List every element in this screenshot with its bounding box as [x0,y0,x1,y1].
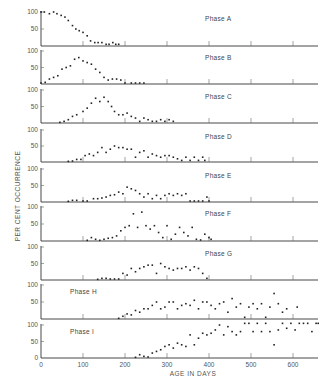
data-point [236,334,238,336]
data-point [86,200,88,202]
data-point [202,332,204,334]
data-point [72,116,74,118]
data-point [173,301,175,303]
data-point [139,152,141,154]
data-point [173,156,175,158]
data-point [210,332,212,334]
panel-phase-i: 501000Phase I [27,321,319,361]
data-point [59,122,61,124]
data-point [202,273,204,275]
data-point [101,197,103,199]
data-point [49,78,51,80]
data-point [64,16,66,18]
data-point [208,237,210,239]
data-point [126,112,128,114]
data-point [114,145,116,147]
data-point [128,225,130,227]
data-point [173,195,175,197]
data-point [173,121,175,123]
data-point [278,303,280,305]
data-point [170,239,172,241]
data-point [191,227,193,229]
data-point [223,301,225,303]
data-point [177,342,179,344]
data-point [78,57,80,59]
data-point [95,68,97,70]
data-point [76,114,78,116]
data-point [74,58,76,60]
data-point [296,306,298,308]
data-point [124,227,126,229]
data-point [168,344,170,346]
data-point [131,268,133,270]
data-point [189,200,191,202]
panel-phase-d: 50100Phase D [27,126,318,162]
data-point [194,344,196,346]
data-point [135,271,137,273]
data-point [164,306,166,308]
data-point [181,305,183,307]
data-point [206,196,208,198]
data-point [227,326,229,328]
data-point [200,239,202,241]
data-point [97,152,99,154]
data-point [189,305,191,307]
data-point [135,190,137,192]
data-point [189,160,191,162]
data-point [65,67,67,69]
phase-label: Phase A [205,15,232,22]
data-point [93,198,95,200]
data-point [168,119,170,121]
data-point [86,240,88,242]
x-axis: 0100200300400500600 [39,361,299,368]
data-point [135,156,137,158]
data-point [131,188,133,190]
data-point [273,293,275,295]
data-point [82,111,84,113]
data-point [269,331,271,333]
data-point [147,308,149,310]
data-point [206,278,208,280]
x-tick-label: 300 [162,361,173,368]
data-point [122,273,124,275]
x-tick-label: 400 [204,361,215,368]
data-point [152,264,154,266]
data-point [311,331,313,333]
data-point [198,160,200,162]
data-point [126,313,128,315]
data-point [131,148,133,150]
data-point [194,300,196,302]
data-point [111,106,113,108]
data-point [181,195,183,197]
y-tick-label: 100 [27,47,38,54]
data-point [227,311,229,313]
panels-group: 50100Phase A50100Phase B50100Phase C5010… [27,8,319,361]
y-tick-label: 100 [27,126,38,133]
data-point [198,337,200,339]
data-point [160,349,162,351]
data-point [206,334,208,336]
data-point [156,195,158,197]
data-point [204,160,206,162]
panel-phase-b: 50100Phase B [27,47,318,84]
data-point [168,193,170,195]
data-point [90,40,92,42]
data-point [194,156,196,158]
data-point [101,278,103,280]
data-point [299,323,301,325]
data-point [135,310,137,312]
data-point [139,82,141,84]
data-point [115,44,117,46]
data-point [290,323,292,325]
y-tick-label: 100 [27,8,38,15]
data-point [189,269,191,271]
data-point [122,315,124,317]
data-point [158,232,160,234]
data-point [118,318,120,320]
data-point [105,196,107,198]
data-point [248,306,250,308]
data-point [175,233,177,235]
data-point [112,42,114,44]
data-point [114,278,116,280]
data-point [89,153,91,155]
